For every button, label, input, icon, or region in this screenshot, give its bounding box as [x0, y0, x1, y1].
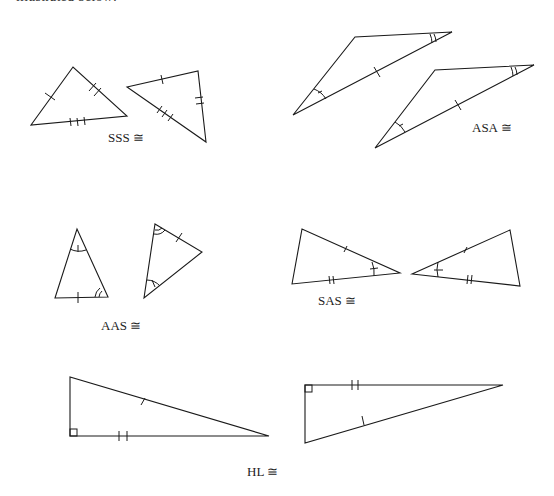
congruence-figure	[0, 0, 554, 496]
sas-triangle-right	[412, 230, 520, 286]
aas-triangle-right	[144, 224, 202, 298]
sss-label: SSS ≅	[108, 130, 144, 146]
hl-triangle-right	[305, 385, 503, 443]
aas-diagram	[55, 224, 202, 303]
hl-label: HL ≅	[247, 464, 278, 480]
aas-label: AAS ≅	[101, 318, 141, 334]
aas-triangle-left	[55, 229, 108, 298]
sas-diagram	[292, 229, 520, 286]
asa-triangle-top	[293, 32, 452, 115]
sas-triangle-left	[292, 229, 400, 284]
asa-label: ASA ≅	[472, 120, 512, 136]
sas-label: SAS ≅	[318, 293, 356, 309]
hl-triangle-left	[70, 377, 269, 436]
hl-diagram	[70, 377, 503, 443]
sss-triangle-left	[31, 67, 127, 125]
